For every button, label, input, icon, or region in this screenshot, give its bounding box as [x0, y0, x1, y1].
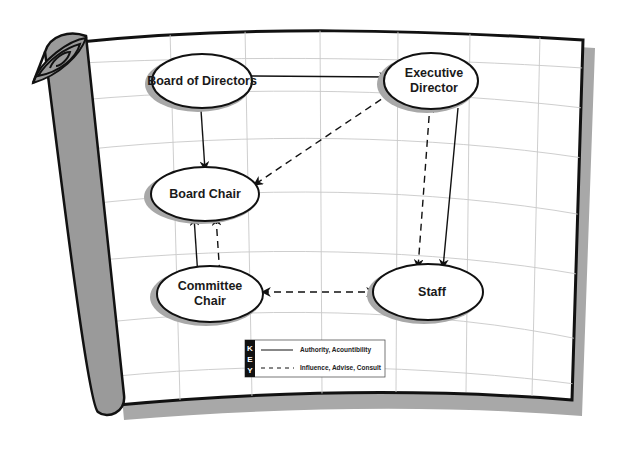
node-label: Board of Directors: [147, 74, 257, 88]
node-label: Director: [410, 81, 458, 95]
legend-solid-label: Authority, Acountibility: [300, 346, 372, 354]
node-label: Committee: [178, 279, 243, 293]
legend-key-letter: E: [247, 355, 253, 364]
legend-key-letter: K: [247, 344, 253, 353]
edge-bod-to-ed: [250, 76, 388, 77]
legend-key-letter: Y: [247, 366, 253, 375]
node-label: Board Chair: [169, 187, 241, 201]
node-label: Chair: [194, 294, 226, 308]
node-label: Executive: [405, 66, 463, 80]
legend-dashed-label: Influence, Advise, Consult: [300, 364, 382, 372]
legend: K E Y Authority, Acountibility Influence…: [245, 340, 385, 377]
node-label: Staff: [418, 285, 447, 299]
org-diagram: Board of Directors Executive Director Bo…: [0, 0, 624, 450]
